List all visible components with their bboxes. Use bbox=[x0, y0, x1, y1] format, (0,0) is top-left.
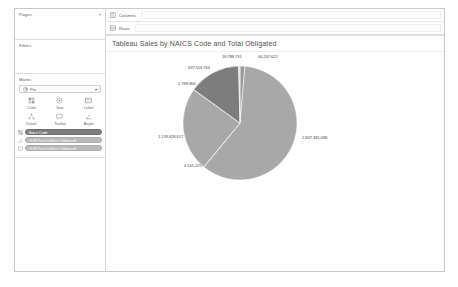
columns-drop-zone[interactable] bbox=[141, 11, 441, 19]
mark-type-value: Pie bbox=[30, 87, 36, 92]
pie-slice-label: 66,207,622 bbox=[258, 54, 278, 59]
pie-slice-label: 1,139,628,617 bbox=[158, 134, 183, 139]
pie-chart-svg[interactable] bbox=[106, 52, 444, 271]
pill-naics-code[interactable]: Naics Code bbox=[25, 129, 103, 136]
pie-slice-label: 4,165,225 bbox=[184, 163, 202, 168]
pill-sum-total-dollars-obligated-angle[interactable]: SUM(Total Dollars Obligated) bbox=[25, 137, 103, 144]
size-circle-icon bbox=[55, 96, 64, 105]
marks-card: Marks Pie ▾ Color bbox=[15, 74, 105, 158]
columns-icon bbox=[110, 12, 116, 18]
filters-card: Filters bbox=[15, 40, 105, 74]
filters-label: Filters bbox=[19, 43, 31, 48]
marks-label-label: Label bbox=[84, 106, 94, 110]
pie-chart[interactable]: 2,837,945,0884,165,2251,139,628,6172,799… bbox=[106, 52, 444, 271]
marks-label-button[interactable]: Label bbox=[76, 96, 102, 109]
tableau-window: Pages ▾ Filters Marks Pie bbox=[14, 8, 445, 272]
columns-shelf[interactable]: Columns bbox=[106, 9, 444, 22]
marks-pill-row: Naics Code bbox=[18, 129, 102, 136]
label-tag-icon bbox=[84, 96, 93, 105]
chevron-down-icon[interactable]: ▾ bbox=[99, 13, 101, 17]
mark-type-dropdown[interactable]: Pie ▾ bbox=[19, 85, 101, 93]
rows-icon bbox=[110, 25, 116, 31]
marks-detail-button[interactable]: Detail bbox=[18, 112, 44, 125]
pages-label: Pages bbox=[19, 12, 32, 17]
pages-card: Pages ▾ bbox=[15, 9, 105, 40]
color-palette-icon bbox=[27, 96, 36, 105]
pill-sum-total-dollars-obligated-label[interactable]: SUM(Total Dollars Obligated) bbox=[25, 145, 103, 152]
angle-field-icon bbox=[18, 138, 23, 143]
color-field-icon bbox=[18, 130, 23, 135]
marks-card-header: Marks bbox=[15, 74, 105, 84]
rows-drop-zone[interactable] bbox=[135, 24, 441, 32]
filters-drop-zone[interactable] bbox=[15, 50, 105, 70]
pie-slice-label: 2,837,945,088 bbox=[302, 135, 327, 140]
filters-card-header: Filters bbox=[15, 40, 105, 50]
main-area: Columns Rows Tableau Sales by NAICS Code… bbox=[106, 9, 444, 271]
marks-angle-label: Angle bbox=[84, 122, 94, 126]
marks-tooltip-label: Tooltip bbox=[54, 122, 65, 126]
rows-shelf[interactable]: Rows bbox=[106, 22, 444, 35]
marks-button-row-1: Color Size Label bbox=[15, 95, 105, 111]
marks-size-button[interactable]: Size bbox=[47, 96, 73, 109]
pages-card-header: Pages ▾ bbox=[15, 9, 105, 19]
columns-label: Columns bbox=[119, 13, 136, 18]
pie-slice-label: 18,789,731 bbox=[222, 54, 242, 59]
pie-slice-label: 697,519,764 bbox=[188, 65, 210, 70]
marks-size-label: Size bbox=[56, 106, 64, 110]
pages-drop-zone[interactable] bbox=[15, 19, 105, 39]
label-field-icon bbox=[18, 146, 23, 151]
marks-pill-row: SUM(Total Dollars Obligated) bbox=[18, 145, 102, 152]
marks-label: Marks bbox=[19, 77, 31, 82]
marks-detail-label: Detail bbox=[26, 122, 36, 126]
marks-button-row-2: Detail Tooltip Angle bbox=[15, 111, 105, 127]
marks-tooltip-button[interactable]: Tooltip bbox=[47, 112, 73, 125]
page-title: Tableau Sales by NAICS Code and Total Ob… bbox=[106, 36, 444, 52]
marks-color-button[interactable]: Color bbox=[18, 96, 44, 109]
visualization-canvas[interactable]: Tableau Sales by NAICS Code and Total Ob… bbox=[106, 35, 444, 271]
pie-slice-label: 2,799,966 bbox=[178, 81, 196, 86]
rows-label: Rows bbox=[119, 26, 130, 31]
chevron-down-icon[interactable]: ▾ bbox=[95, 87, 97, 92]
marks-pill-row: SUM(Total Dollars Obligated) bbox=[18, 137, 102, 144]
marks-color-label: Color bbox=[27, 106, 36, 110]
pie-mark-icon bbox=[23, 87, 28, 92]
marks-angle-button[interactable]: Angle bbox=[76, 112, 102, 125]
marks-pill-list: Naics Code SUM(Total Dollars Obligated) … bbox=[15, 128, 105, 157]
sidebar: Pages ▾ Filters Marks Pie bbox=[15, 9, 106, 271]
